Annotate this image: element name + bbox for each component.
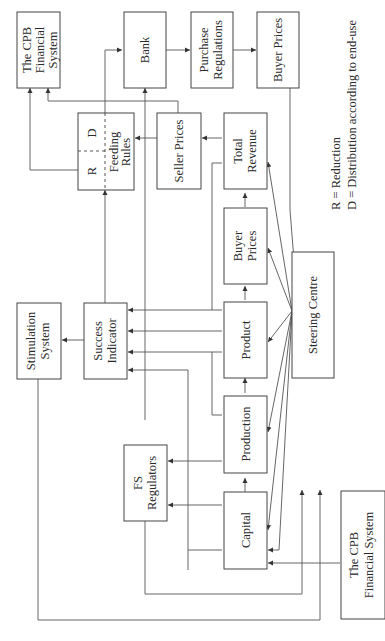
- node-label: FS: [131, 476, 145, 490]
- node-label: Capital: [239, 511, 253, 548]
- legend-distribution: D = Distribution according to end-use: [345, 20, 359, 210]
- node-label: Success: [91, 321, 105, 361]
- node-total-revenue: Total Revenue: [224, 113, 267, 189]
- feeding-rules-r-label: R: [85, 166, 99, 175]
- node-label: The CPB: [347, 532, 361, 578]
- node-stimulation-system: Stimulation System: [17, 303, 61, 379]
- node-production: Production: [224, 396, 267, 473]
- node-steering-centre: Steering Centre: [292, 252, 334, 378]
- node-feeding-rules: D R Feeding Rules: [78, 113, 134, 190]
- node-label: System: [46, 31, 60, 68]
- node-cpb-financial-system-bottom: The CPB Financial System: [341, 491, 385, 619]
- node-label: Financial: [33, 26, 47, 73]
- node-cpb-financial-system-top: The CPB Financial System: [17, 12, 60, 88]
- node-product: Product: [224, 302, 267, 378]
- feeding-rules-d-label: D: [85, 128, 99, 137]
- node-label: Product: [239, 320, 253, 359]
- node-label: Buyer: [231, 230, 245, 261]
- node-capital: Capital: [224, 492, 267, 569]
- node-label: Rules: [119, 138, 133, 167]
- node-label: Financial System: [362, 511, 376, 598]
- node-label: Indicator: [105, 318, 119, 364]
- node-label: Stimulation: [24, 311, 38, 370]
- node-bank: Bank: [124, 12, 166, 88]
- node-label: Revenue: [245, 129, 259, 173]
- legend: R = Reduction D = Distribution according…: [329, 20, 359, 210]
- flow-diagram: The CPB Financial System Bank Purchase R…: [0, 0, 385, 641]
- node-label: Regulators: [145, 456, 159, 510]
- node-purchase-regulations: Purchase Regulations: [191, 12, 233, 88]
- node-fs-regulators: FS Regulators: [124, 445, 167, 521]
- node-label: Total: [231, 138, 245, 164]
- node-label: Regulations: [211, 20, 225, 80]
- node-label: System: [38, 322, 52, 359]
- node-label: Prices: [245, 231, 259, 262]
- node-success-indicator: Success Indicator: [84, 303, 127, 379]
- node-buyer-prices-top: Buyer Prices: [257, 12, 299, 88]
- node-label: Bank: [138, 36, 152, 63]
- node-label: Buyer Prices: [271, 18, 285, 82]
- node-buyer-prices-middle: Buyer Prices: [224, 208, 267, 284]
- node-seller-prices: Seller Prices: [157, 113, 201, 189]
- legend-reduction: R = Reduction: [329, 136, 343, 210]
- node-label: Production: [239, 406, 253, 462]
- node-label: Purchase: [197, 27, 211, 73]
- node-label: Seller Prices: [172, 119, 186, 182]
- node-label: Steering Centre: [306, 276, 320, 355]
- node-label: The CPB: [20, 27, 34, 73]
